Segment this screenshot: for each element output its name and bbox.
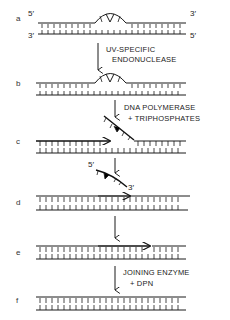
panel-label-c: c [16,137,20,146]
step-label-2a: DNA POLYMERASE [124,103,195,112]
fragment-end-5: 5′ [88,160,94,169]
step-label-2b: + TRIPHOSPHATES [128,114,200,123]
strand-end-top-right: 3′ [190,9,196,18]
panel-label-b: b [16,79,21,88]
panel-label-f: f [16,296,19,305]
dna-repair-diagram: a 5′ 3′ 3′ 5′ UV-SPECIFIC ENDONUCLEASE b [0,0,230,320]
panel-a: a 5′ 3′ 3′ 5′ [16,9,196,40]
excised-fragment [96,170,127,187]
panel-f: f [16,296,186,310]
panel-label-d: d [16,198,20,207]
strand-end-bottom-left: 3′ [28,31,34,40]
step-label-1a: UV-SPECIFIC [106,45,156,54]
pyrimidine-dimer [106,14,114,22]
strand-end-top-left: 5′ [28,9,34,18]
step-label-5a: JOINING ENZYME [123,268,190,277]
step-polymerase: DNA POLYMERASE + TRIPHOSPHATES [115,100,200,123]
step-label-1b: ENDONUCLEASE [112,55,177,64]
strand-end-bottom-right: 5′ [190,31,196,40]
fragment-end-3: 3′ [128,183,134,192]
panel-e: e [16,246,186,259]
panel-b: b [16,74,186,96]
step-label-5b: + DPN [130,279,153,288]
base-ticks [42,24,180,34]
nicked-top-strand [36,74,186,84]
step-ligation: JOINING ENZYME + DPN [115,266,190,290]
panel-d: d 5′ 3′ [16,160,190,210]
panel-label-e: e [16,248,21,257]
panel-label-a: a [16,14,21,23]
step-endonuclease: UV-SPECIFIC ENDONUCLEASE [98,43,177,70]
